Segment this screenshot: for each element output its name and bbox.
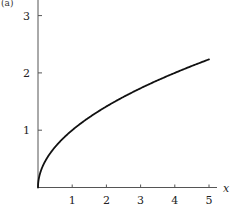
y-tick-label: 1 (23, 124, 30, 137)
panel-label: (a) (1, 0, 13, 8)
x-tick-label: 3 (137, 194, 144, 207)
y-tick-label: 3 (23, 10, 30, 23)
x-tick-label: 1 (69, 194, 76, 207)
axes: 12345123 (23, 0, 217, 207)
x-tick-label: 5 (206, 194, 213, 207)
y-tick-label: 2 (23, 67, 30, 80)
data-curve (38, 59, 209, 187)
x-tick-label: 4 (171, 194, 178, 207)
chart: (a) 12345123 x (0, 0, 230, 209)
x-tick-label: 2 (103, 194, 110, 207)
x-axis-label: x (223, 182, 230, 195)
